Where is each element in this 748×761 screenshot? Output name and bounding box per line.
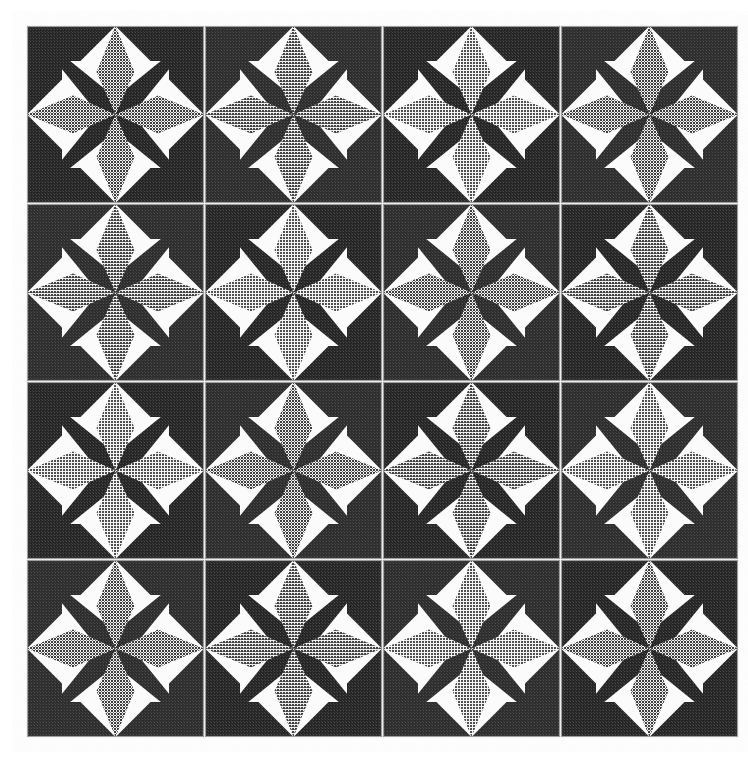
- tile-r2-c4: [561, 204, 738, 381]
- tile-r4-c1: [27, 560, 204, 737]
- tile-r2-c3: [383, 204, 560, 381]
- tile-r1-c1: [27, 26, 204, 203]
- tile-r3-c3: [383, 382, 560, 559]
- tile-photograph: [0, 0, 748, 761]
- tile-r4-c2: [205, 560, 382, 737]
- tile-r3-c2: [205, 382, 382, 559]
- tile-r2-c1: [27, 204, 204, 381]
- tile-r3-c4: [561, 382, 738, 559]
- tile-r1-c2: [205, 26, 382, 203]
- tile-r1-c4: [561, 26, 738, 203]
- tile-r4-c4: [561, 560, 738, 737]
- tile-r4-c3: [383, 560, 560, 737]
- tile-grid: [0, 0, 748, 761]
- tile-r2-c2: [205, 204, 382, 381]
- tile-r1-c3: [383, 26, 560, 203]
- tile-r3-c1: [27, 382, 204, 559]
